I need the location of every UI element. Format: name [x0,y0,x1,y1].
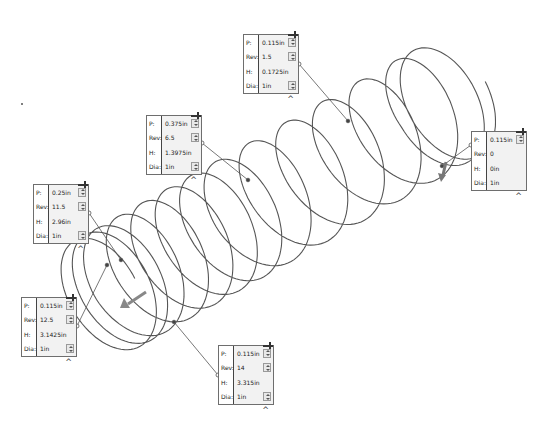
field-value-input[interactable]: 2.96in [49,214,88,229]
field-value-input[interactable]: 12.5 [37,313,76,328]
spinner-arrows-icon[interactable] [516,135,524,144]
field-value-input[interactable]: 1in [487,176,526,191]
callout-row-dia: Dia:1in [219,390,273,405]
caret-up-icon[interactable]: ^ [65,359,72,367]
spinner-arrows-icon[interactable] [263,392,271,401]
spinner-arrows-icon[interactable] [191,119,199,128]
spinner-arrows-icon[interactable] [66,301,74,310]
caret-up-icon[interactable]: ^ [515,193,522,201]
field-value-input[interactable]: 14 [234,361,273,376]
callout-row-p: P:0.115in [244,35,298,50]
field-label: Rev: [219,361,234,376]
caret-up-icon[interactable]: ^ [77,246,84,254]
field-value-input[interactable]: 3.315in [234,375,273,390]
field-value-input[interactable]: 0 [487,147,526,162]
caret-up-icon[interactable]: ^ [262,407,269,415]
field-value-input[interactable]: 0.375in [162,116,201,131]
helix-point-handle[interactable] [172,320,176,324]
spinner-arrows-icon[interactable] [66,315,74,324]
field-label: Dia: [22,342,37,357]
pin-icon[interactable] [78,174,88,182]
field-value: 1in [490,179,526,186]
spinner-arrows-icon[interactable] [78,231,86,240]
helix-point-handle[interactable] [119,258,123,262]
field-label: Dia: [244,79,259,94]
spinner-arrows-icon[interactable] [66,344,74,353]
helix-point-handle[interactable] [246,178,250,182]
callout-row-p: P:0.25in [34,185,88,200]
field-value-input[interactable]: 1.3975in [162,145,201,160]
field-value-input[interactable]: 11.5 [49,200,88,215]
field-value: 11.5 [52,203,78,210]
spinner-arrows-icon[interactable] [263,363,271,372]
spinner-arrows-icon[interactable] [288,81,296,90]
field-label: Rev: [472,147,487,162]
field-label: Dia: [34,229,49,244]
field-label: H: [244,64,259,79]
field-value: 0.1725in [262,68,298,75]
field-value-input[interactable]: 1in [37,342,76,357]
spinner-arrows-icon[interactable] [78,202,86,211]
field-value: 1in [165,163,191,170]
spinner-arrows-icon[interactable] [288,52,296,61]
field-value: 0.115in [490,136,516,143]
pin-icon[interactable] [66,287,76,295]
field-label: H: [34,214,49,229]
pin-icon[interactable] [288,24,298,32]
pin-icon[interactable] [516,121,526,129]
field-value-input[interactable]: 0.115in [37,298,76,313]
spinner-arrows-icon[interactable] [263,349,271,358]
field-value-input[interactable]: 1in [162,160,201,175]
callout-row-rev: Rev:6.5 [147,131,201,146]
helix-point-handle[interactable] [105,263,109,267]
callout-row-rev: Rev:14 [219,361,273,376]
callout-row-h: H:0.1725in [244,64,298,79]
field-value-input[interactable]: 3.1425in [37,327,76,342]
field-value-input[interactable]: 0.1725in [259,64,298,79]
caret-up-icon[interactable]: ^ [287,96,294,104]
field-label: P: [22,298,37,313]
field-label: Dia: [472,176,487,191]
pin-icon[interactable] [191,105,201,113]
field-label: Dia: [147,160,162,175]
field-value: 1.5 [262,53,288,60]
origin-dot [21,103,23,105]
field-value-input[interactable]: 1in [234,390,273,405]
field-value: 1.3975in [165,149,201,156]
spinner-arrows-icon[interactable] [191,133,199,142]
callout-row-dia: Dia:1in [147,160,201,175]
field-value-input[interactable]: 0.25in [49,185,88,200]
field-value-input[interactable]: 0.115in [487,132,526,147]
field-value: 6.5 [165,134,191,141]
field-label: Rev: [34,200,49,215]
field-label: P: [244,35,259,50]
callout-row-h: H:1.3975in [147,145,201,160]
spinner-arrows-icon[interactable] [78,188,86,197]
field-label: H: [147,145,162,160]
helix-point-handle[interactable] [346,119,350,123]
callout-end: P:0.115inRev:14H:3.315inDia:1in^ [218,345,274,405]
field-value-input[interactable]: 0.115in [259,35,298,50]
field-value: 3.1425in [40,331,76,338]
pin-icon[interactable] [263,335,273,343]
callout-row-p: P:0.115in [22,298,76,313]
callout-row-rev: Rev:0 [472,147,526,162]
field-label: P: [147,116,162,131]
field-value-input[interactable]: 1.5 [259,50,298,65]
callout-start: P:0.115inRev:0H:0inDia:1in^ [471,131,527,191]
callout-row-dia: Dia:1in [22,342,76,357]
field-value-input[interactable]: 1in [49,229,88,244]
field-value-input[interactable]: 0in [487,161,526,176]
field-value: 0.375in [165,120,191,127]
spinner-arrows-icon[interactable] [288,38,296,47]
field-label: P: [34,185,49,200]
callout-segment-1: P:0.115inRev:1.5H:0.1725inDia:1in^ [243,34,299,94]
field-value-input[interactable]: 6.5 [162,131,201,146]
field-value: 0.115in [262,39,288,46]
end-direction-arrow-icon[interactable] [120,292,146,308]
field-value-input[interactable]: 1in [259,79,298,94]
field-value: 1in [52,232,78,239]
spinner-arrows-icon[interactable] [191,162,199,171]
field-value-input[interactable]: 0.115in [234,346,273,361]
caret-up-icon[interactable]: ^ [190,177,197,185]
